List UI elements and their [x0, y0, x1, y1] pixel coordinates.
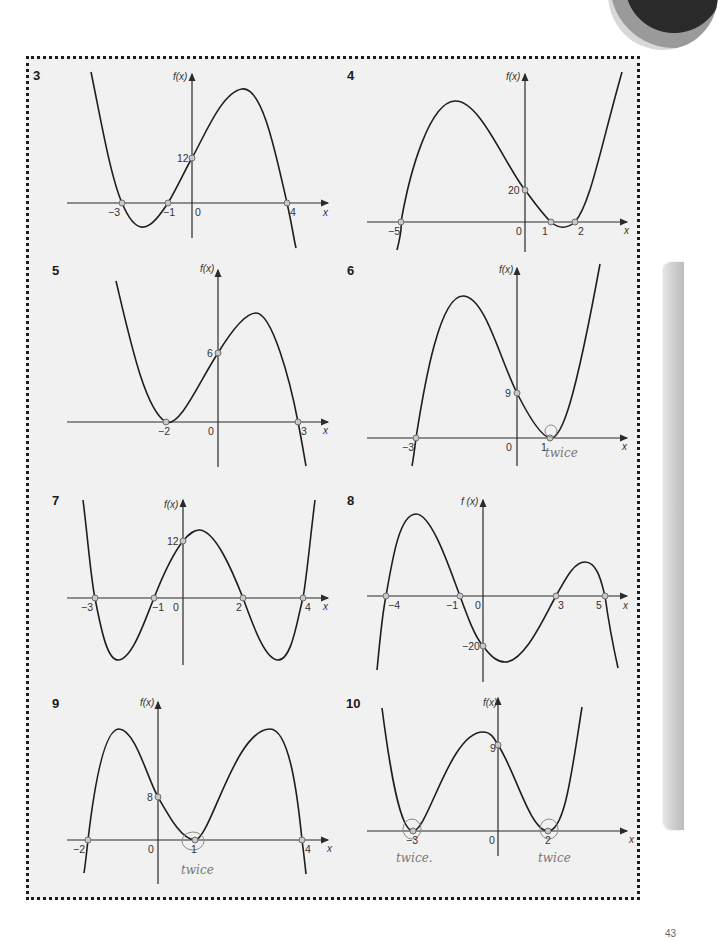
page-number: 43 — [665, 928, 676, 939]
tick-label: −3 — [402, 441, 414, 453]
root-point — [548, 219, 554, 225]
x-axis-label: x — [326, 843, 333, 854]
curve — [116, 281, 306, 466]
x-axis-label: x — [322, 207, 329, 218]
root-point — [85, 837, 91, 843]
y-intercept-label: 12 — [167, 535, 179, 547]
x-axis-label: x — [322, 425, 329, 436]
y-intercept-point — [480, 643, 486, 649]
x-axis-label: x — [623, 225, 630, 236]
tick-label: −1 — [446, 599, 458, 611]
tick-label: 0 — [516, 225, 522, 237]
graph-8: 8 f (x) x −4 −1 0 3 5 −20 — [347, 493, 629, 682]
y-axis-label: f(x) — [164, 499, 178, 510]
tick-label: −3 — [406, 834, 418, 846]
graph-6: 6 f(x) x −3 0 1 9 twice — [347, 263, 628, 466]
tick-label: 5 — [596, 599, 602, 611]
x-axis-label: x — [628, 834, 635, 845]
handwritten-note: twice. — [396, 851, 433, 865]
handwritten-note: twice — [538, 851, 571, 865]
tick-label: 0 — [489, 834, 495, 846]
y-intercept-point — [514, 390, 520, 396]
tick-label: −5 — [388, 225, 400, 237]
curve — [412, 264, 600, 466]
y-intercept-label: 8 — [147, 791, 153, 803]
graph-4: 4 f(x) x −5 0 1 2 20 — [347, 68, 630, 252]
tick-label: 2 — [578, 225, 584, 237]
y-axis-label: f(x) — [499, 264, 513, 275]
tick-label: 0 — [173, 601, 179, 613]
tick-label: 3 — [301, 425, 307, 437]
tick-label: −3 — [81, 601, 93, 613]
tick-label: 2 — [545, 834, 551, 846]
graph-7: 7 f(x) x −3 −1 0 2 4 12 — [52, 493, 329, 665]
tick-label: 0 — [208, 425, 214, 437]
y-intercept-point — [180, 538, 186, 544]
x-axis-label: x — [622, 600, 629, 611]
y-intercept-point — [522, 187, 528, 193]
tick-label: 0 — [475, 599, 481, 611]
y-axis-label: f(x) — [140, 697, 154, 708]
x-axis-label: x — [322, 601, 329, 612]
graph-9: 9 f(x) x −2 0 1 4 8 twice — [52, 696, 333, 884]
y-intercept-point — [215, 350, 221, 356]
y-intercept-label: 12 — [177, 152, 189, 164]
question-number: 10 — [346, 696, 360, 711]
graph-10: 10 f(x) x −3 0 2 9 twice. twice — [346, 696, 635, 865]
y-intercept-point — [189, 155, 195, 161]
tick-label: 3 — [558, 599, 564, 611]
graph-5: 5 f(x) x −2 0 3 6 — [52, 263, 329, 467]
y-axis-label: f(x) — [173, 71, 187, 82]
curve — [377, 514, 618, 670]
tick-label: 0 — [148, 843, 154, 855]
tick-label: −2 — [158, 425, 170, 437]
y-intercept-point — [495, 742, 501, 748]
y-intercept-label: −20 — [462, 640, 480, 652]
tick-label: −4 — [388, 599, 400, 611]
y-axis-label: f(x) — [506, 71, 520, 82]
curve — [382, 707, 582, 831]
handwritten-note: twice — [545, 446, 578, 460]
tick-label: −1 — [152, 601, 164, 613]
question-number: 5 — [52, 263, 59, 278]
question-number: 7 — [52, 493, 59, 508]
question-number: 8 — [347, 493, 354, 508]
question-number: 4 — [347, 68, 355, 83]
tick-label: 1 — [542, 225, 548, 237]
tick-label: −2 — [73, 843, 85, 855]
tick-label: 0 — [195, 206, 201, 218]
y-intercept-label: 6 — [207, 347, 213, 359]
graph-3: 3 f(x) x −3 −1 0 4 12 — [33, 68, 329, 248]
y-axis-label: f(x) — [200, 263, 214, 274]
curve — [83, 500, 315, 660]
y-intercept-point — [155, 794, 161, 800]
y-axis-label: f(x) — [483, 697, 497, 708]
question-number: 3 — [33, 68, 40, 83]
x-axis-label: x — [621, 441, 628, 452]
curve — [397, 72, 622, 250]
tick-label: 4 — [290, 206, 296, 218]
question-number: 9 — [52, 696, 59, 711]
root-point — [602, 593, 608, 599]
tick-label: 2 — [236, 601, 242, 613]
y-axis-label: f (x) — [461, 496, 478, 507]
y-intercept-label: 9 — [490, 742, 496, 754]
tick-label: 1 — [191, 843, 197, 855]
tick-label: −1 — [163, 206, 175, 218]
question-number: 6 — [347, 263, 354, 278]
y-intercept-label: 20 — [508, 184, 520, 196]
tick-label: 0 — [506, 441, 512, 453]
y-intercept-label: 9 — [505, 387, 511, 399]
tick-label: −3 — [108, 206, 120, 218]
handwritten-note: twice — [181, 863, 214, 877]
tick-label: 4 — [305, 843, 311, 855]
tick-label: 4 — [305, 601, 311, 613]
